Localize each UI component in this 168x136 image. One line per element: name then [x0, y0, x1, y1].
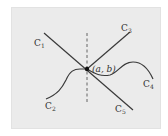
- label-point-a-b: (a, b): [92, 64, 116, 74]
- label-c3: C3: [121, 23, 132, 34]
- point-a-b: [85, 67, 89, 71]
- label-c2: C2: [45, 101, 56, 112]
- label-c5: C5: [115, 104, 126, 115]
- line-c1-c5: [44, 33, 133, 110]
- label-c1: C1: [34, 38, 45, 49]
- label-c4: C4: [143, 79, 154, 90]
- curves-diagram: C1 C3 (a, b) C4 C2 C5: [0, 0, 168, 136]
- curve-c2: [46, 69, 87, 99]
